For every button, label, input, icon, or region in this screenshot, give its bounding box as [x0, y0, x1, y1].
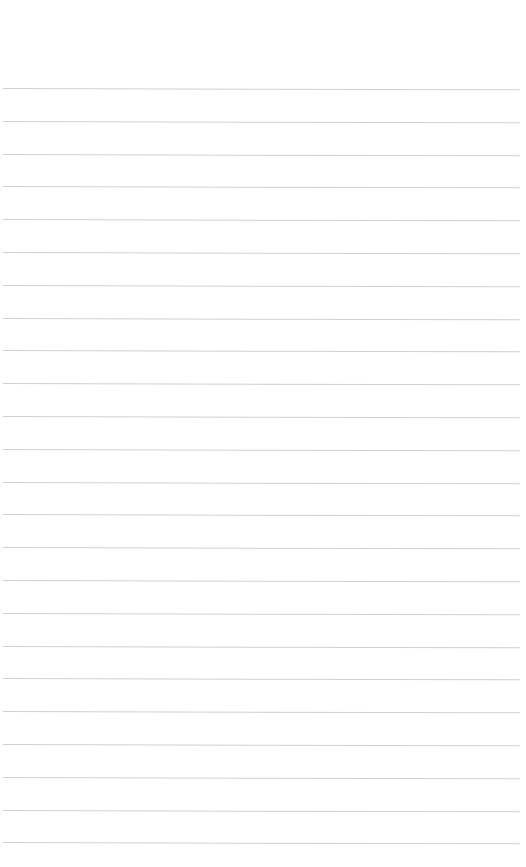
ruled-line	[3, 744, 520, 746]
ruled-line	[3, 678, 520, 680]
ruled-line	[3, 482, 520, 484]
ruled-line	[3, 646, 520, 648]
ruled-line	[3, 711, 520, 713]
ruled-line	[3, 121, 520, 123]
ruled-line	[3, 842, 520, 844]
ruled-line	[3, 285, 520, 287]
lined-paper-page	[0, 0, 526, 867]
ruled-line	[3, 613, 520, 615]
ruled-line	[3, 777, 520, 779]
ruled-line	[3, 383, 520, 385]
ruled-line	[3, 810, 520, 812]
ruled-line	[3, 449, 520, 451]
ruled-line	[3, 416, 520, 418]
ruled-line	[3, 514, 520, 516]
ruled-line	[3, 154, 520, 156]
ruled-line	[3, 219, 520, 221]
ruled-line	[3, 186, 520, 188]
ruled-line	[3, 547, 520, 549]
ruled-line	[3, 350, 520, 352]
ruled-line	[3, 88, 520, 90]
ruled-line	[3, 252, 520, 254]
ruled-line	[3, 318, 520, 320]
ruled-line	[3, 580, 520, 582]
